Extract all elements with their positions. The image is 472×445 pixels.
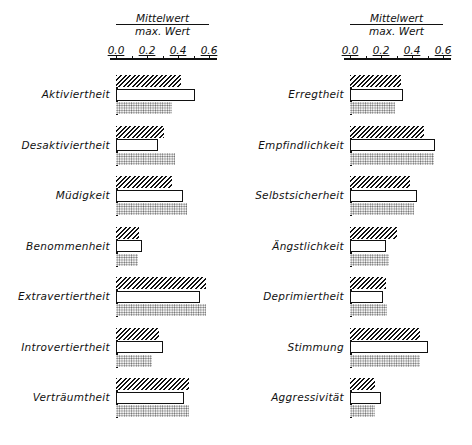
bar-open [116,190,183,202]
category-label: Benommenheit [26,240,110,252]
x-tick-label: 0.4 [170,44,187,56]
axis-title: Mittelwertmax. Wert [350,12,443,37]
category-label: Verträumtheit [33,391,110,403]
category-label: Empfindlichkeit [258,139,344,151]
bar-hatched [116,75,181,87]
bar-open [116,89,195,101]
bar-open [350,392,381,404]
category-label: Müdigkeit [56,189,110,201]
bar-hatched [116,328,159,340]
bar-hatched [350,227,397,239]
bar-hatched [350,378,375,390]
x-tick-label: 0.0 [342,44,359,56]
bar-dotted [116,254,138,266]
x-tick-label: 0.2 [139,44,156,56]
bar-dotted [350,203,414,215]
bar-open [350,89,403,101]
bar-dotted [350,102,395,114]
x-tick-label: 0.6 [201,44,218,56]
x-tick-label: 0.2 [373,44,390,56]
bar-open [116,392,184,404]
axis-title: Mittelwertmax. Wert [116,12,209,37]
x-axis-line [110,58,217,60]
bar-open [116,341,163,353]
category-label: Selbstsicherheit [255,189,344,201]
bar-dotted [116,203,187,215]
category-label: Aggressivität [271,391,344,403]
axis-title-denominator: max. Wert [369,25,424,37]
bar-hatched [116,227,139,239]
bar-open [350,240,386,252]
bar-hatched [350,328,420,340]
bar-open [116,291,200,303]
bar-dotted [350,153,434,165]
bar-hatched [350,176,410,188]
x-tick-label: 0.4 [404,44,421,56]
bar-dotted [350,405,375,417]
bar-open [350,190,417,202]
bar-hatched [116,176,172,188]
bar-dotted [116,355,152,367]
bar-dotted [116,153,175,165]
x-tick-label: 0.0 [108,44,125,56]
bar-hatched [350,126,424,138]
category-label: Introvertiertheit [21,341,110,353]
bar-hatched [350,75,401,87]
axis-title-numerator: Mittelwert [350,12,443,25]
category-label: Extravertiertheit [18,290,110,302]
x-tick-label: 0.6 [435,44,452,56]
bar-dotted [350,304,387,316]
bar-hatched [116,126,164,138]
bar-open [350,341,428,353]
category-label: Stimmung [287,341,344,353]
bar-open [350,139,435,151]
category-label: Deprimiertheit [263,290,344,302]
bar-open [350,291,383,303]
bar-dotted [116,102,172,114]
bar-hatched [116,378,189,390]
chart-left: Mittelwertmax. Wert0.00.20.40.6Aktiviert… [0,0,236,445]
chart-right: Mittelwertmax. Wert0.00.20.40.6Erregthei… [236,0,472,445]
category-label: Desaktiviertheit [21,139,110,151]
axis-title-numerator: Mittelwert [116,12,209,25]
bar-open [116,139,158,151]
axis-title-denominator: max. Wert [135,25,190,37]
bar-hatched [116,277,206,289]
bar-dotted [116,304,206,316]
bar-dotted [350,254,389,266]
x-axis-line [344,58,451,60]
bar-open [116,240,142,252]
category-label: Ängstlichkeit [272,240,344,252]
bar-hatched [350,277,386,289]
bar-dotted [116,405,189,417]
category-label: Aktiviertheit [42,88,110,100]
bar-dotted [350,355,420,367]
category-label: Erregtheit [288,88,344,100]
